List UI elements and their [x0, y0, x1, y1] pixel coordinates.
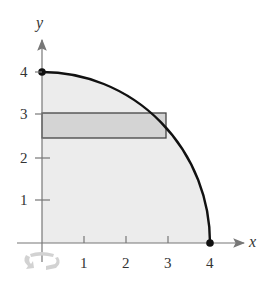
y-tick-label-1: 1	[20, 192, 28, 208]
x-tick-label-4: 4	[206, 255, 214, 271]
quarter-circle-diagram: 1 2 3 4 1 2 3 4 x y	[0, 0, 263, 285]
x-tick-label-1: 1	[80, 255, 88, 271]
shaded-region	[42, 72, 210, 243]
y-tick-label-2: 2	[20, 150, 28, 166]
endpoint-right	[206, 239, 214, 247]
x-tick-label-2: 2	[122, 255, 130, 271]
x-axis-label: x	[248, 233, 256, 250]
diagram-canvas: 1 2 3 4 1 2 3 4 x y	[0, 0, 263, 285]
y-axis-label: y	[34, 14, 44, 32]
y-tick-label-4: 4	[20, 64, 28, 80]
representative-rectangle	[42, 113, 166, 138]
y-tick-label-3: 3	[20, 106, 28, 122]
x-tick-label-3: 3	[164, 255, 172, 271]
